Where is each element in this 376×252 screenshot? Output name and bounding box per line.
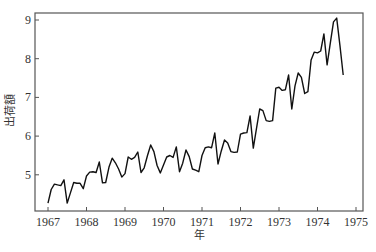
x-tick-label: 1969 [113,215,137,229]
x-tick-label: 1972 [229,215,253,229]
x-tick-label: 1971 [190,215,214,229]
plot-frame [35,13,363,211]
x-tick-label: 1975 [344,215,368,229]
data-line [48,18,343,203]
x-tick-label: 1970 [152,215,176,229]
y-tick-label: 9 [25,13,31,27]
y-tick-label: 6 [25,129,31,143]
y-tick-label: 7 [25,90,31,104]
y-tick-label: 8 [25,52,31,66]
x-tick-label: 1973 [267,215,291,229]
x-tick-label: 1967 [36,215,60,229]
line-chart: 56789 1967196819691970197119721973197419… [0,0,376,252]
x-axis: 196719681969197019711972197319741975 [36,207,368,229]
x-tick-label: 1968 [75,215,99,229]
x-axis-title: 年 [194,228,205,242]
y-axis-title: 出荷額 [3,94,17,127]
y-tick-label: 5 [25,168,31,182]
y-axis: 56789 [25,13,39,182]
x-tick-label: 1974 [306,215,330,229]
